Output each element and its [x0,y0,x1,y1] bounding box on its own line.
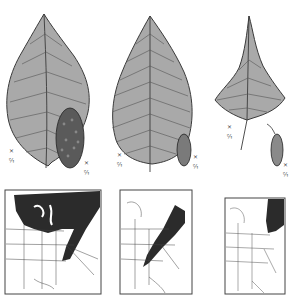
catkin [177,134,191,166]
catkin-scale-label-2: ½ × [193,154,199,170]
range-map-1 [4,189,102,295]
range-map-2 [119,189,193,295]
leaf-blade [215,16,285,120]
leaf-scale-label-2: ½ × [117,152,123,168]
leaf-illustration-1 [0,0,100,180]
range-map-3 [224,197,286,295]
catkin-scale-label-1: ½ × [84,160,90,176]
catkin-scale-label-3: ½ × [283,162,289,178]
leaf-scale-label-3: ½ × [227,124,233,140]
catkin [56,108,84,168]
leaf-scale-label-1: ½ × [9,148,15,164]
leaf-illustration-3 [205,0,292,180]
